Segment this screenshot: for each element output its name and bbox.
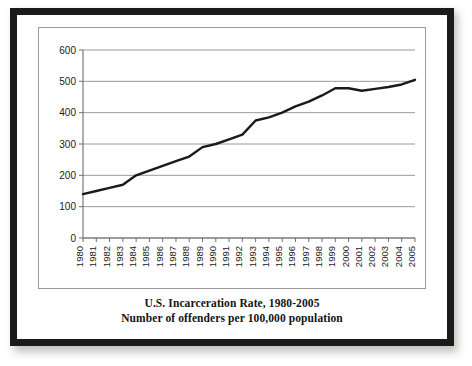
xtick-label: 2001	[353, 246, 364, 267]
xtick-label: 2005	[406, 246, 417, 267]
xtick-label: 2003	[379, 246, 390, 267]
xtick-label: 1981	[87, 246, 98, 267]
xtick-label: 2000	[340, 246, 351, 267]
xtick-label: 1983	[114, 246, 125, 267]
ytick-label: 200	[59, 170, 76, 181]
line-chart: 0100200300400500600198019811982198319841…	[39, 28, 425, 288]
xtick-label: 2004	[393, 246, 404, 267]
xtick-label: 1993	[247, 246, 258, 267]
xtick-label: 1980	[74, 246, 85, 267]
chart-plot-box: 0100200300400500600198019811982198319841…	[38, 27, 426, 289]
ytick-label: 300	[59, 139, 76, 150]
figure-inner-panel: 0100200300400500600198019811982198319841…	[17, 15, 447, 339]
figure-caption: U.S. Incarceration Rate, 1980-2005 Numbe…	[17, 296, 447, 326]
xtick-label: 1989	[194, 246, 205, 267]
xtick-label: 1985	[140, 246, 151, 267]
xtick-label: 1997	[300, 246, 311, 267]
xtick-label: 1992	[233, 246, 244, 267]
xtick-label: 1995	[273, 246, 284, 267]
ytick-label: 500	[59, 76, 76, 87]
xtick-label: 1984	[127, 246, 138, 267]
xtick-label: 1998	[313, 246, 324, 267]
xtick-label: 1982	[101, 246, 112, 267]
figure-frame: 0100200300400500600198019811982198319841…	[10, 8, 454, 346]
ytick-label: 600	[59, 45, 76, 56]
ytick-label: 400	[59, 107, 76, 118]
ytick-label: 100	[59, 201, 76, 212]
caption-line-2: Number of offenders per 100,000 populati…	[17, 311, 447, 326]
xtick-label: 1996	[286, 246, 297, 267]
data-series-line	[83, 80, 415, 194]
ytick-label: 0	[70, 233, 76, 244]
xtick-label: 1986	[154, 246, 165, 267]
xtick-label: 1990	[207, 246, 218, 267]
xtick-label: 1999	[326, 246, 337, 267]
xtick-label: 2002	[366, 246, 377, 267]
xtick-label: 1991	[220, 246, 231, 267]
xtick-label: 1988	[180, 246, 191, 267]
xtick-label: 1987	[167, 246, 178, 267]
caption-line-1: U.S. Incarceration Rate, 1980-2005	[17, 296, 447, 311]
xtick-label: 1994	[260, 246, 271, 267]
